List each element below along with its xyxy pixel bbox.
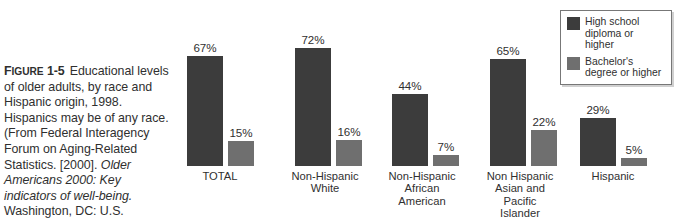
caption-body-part1: Educational levels of older adults, by r… <box>4 64 169 172</box>
legend-label-high-school: High school diploma or higher <box>585 16 665 51</box>
group-label-line: Pacific <box>472 195 568 207</box>
group-label-3: Non HispanicAsian andPacificIslander <box>472 170 568 220</box>
legend-label-bachelors: Bachelor's degree or higher <box>585 56 665 79</box>
group-label-line: Non Hispanic <box>472 170 568 182</box>
legend-swatch-high-school-icon <box>567 17 580 30</box>
bar-value-label-high-school-1: 72% <box>289 34 337 46</box>
bar-value-label-bachelors-4: 5% <box>615 144 653 156</box>
legend-item-high-school: High school diploma or higher <box>567 16 665 51</box>
group-label-0: TOTAL <box>175 170 265 182</box>
bar-value-label-high-school-4: 29% <box>574 104 622 116</box>
bar-bachelors-1 <box>336 140 362 166</box>
bar-high-school-0 <box>187 56 223 166</box>
figure-number-label: FIGURE 1-5 <box>4 64 65 78</box>
bar-value-label-high-school-3: 65% <box>484 45 532 57</box>
group-label-1: Non-HispanicWhite <box>277 170 373 195</box>
group-label-line: Hispanic <box>568 170 658 182</box>
bar-bachelors-0 <box>228 141 254 166</box>
figure-label-number: 1-5 <box>47 64 65 78</box>
bar-bachelors-2 <box>433 155 459 166</box>
bar-high-school-3 <box>490 59 526 166</box>
bar-value-label-bachelors-0: 15% <box>222 127 260 139</box>
bar-bachelors-3 <box>531 130 557 166</box>
group-label-line: Non-Hispanic <box>277 170 373 182</box>
group-label-line: Asian and <box>472 182 568 194</box>
figure-label-smallcaps: IGURE <box>12 66 44 77</box>
group-label-line: Non-Hispanic <box>374 170 470 182</box>
chart-legend: High school diploma or higher Bachelor's… <box>560 10 672 85</box>
bar-value-label-high-school-0: 67% <box>181 42 229 54</box>
group-label-line: African <box>374 182 470 194</box>
group-label-4: Hispanic <box>568 170 658 182</box>
bar-high-school-4 <box>580 118 616 166</box>
bar-value-label-bachelors-1: 16% <box>330 126 368 138</box>
bar-high-school-1 <box>295 48 331 166</box>
bar-bachelors-4 <box>621 158 647 166</box>
figure-label-prefix: F <box>4 64 12 78</box>
group-label-line: White <box>277 182 373 194</box>
group-label-line: Islander <box>472 207 568 219</box>
bar-high-school-2 <box>392 94 428 166</box>
figure-caption: FIGURE 1-5Educational levels of older ad… <box>4 64 176 221</box>
bar-value-label-bachelors-3: 22% <box>525 116 563 128</box>
bar-value-label-bachelors-2: 7% <box>427 141 465 153</box>
legend-swatch-bachelors-icon <box>567 57 580 70</box>
legend-item-bachelors: Bachelor's degree or higher <box>567 56 665 79</box>
group-label-line: TOTAL <box>175 170 265 182</box>
bar-value-label-high-school-2: 44% <box>386 80 434 92</box>
group-label-line: American <box>374 195 470 207</box>
group-label-2: Non-HispanicAfricanAmerican <box>374 170 470 207</box>
caption-body-part2: Washington, DC: U.S. Government Printing… <box>4 204 159 221</box>
